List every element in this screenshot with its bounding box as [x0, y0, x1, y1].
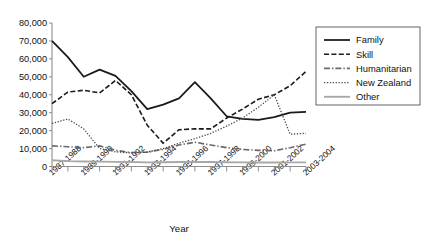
x-axis-title: Year — [169, 223, 189, 234]
y-tick-label: 40,000 — [19, 90, 47, 100]
x-tick-label: 1993-1994 — [142, 143, 179, 177]
y-tick-label: 80,000 — [19, 18, 47, 28]
x-tick-label: 2003-2004 — [301, 143, 338, 177]
y-tick-label: 10,000 — [19, 144, 47, 154]
series-line-skill — [52, 71, 306, 143]
series-lines-group — [52, 41, 306, 163]
x-tick-label: 2001-2002 — [269, 143, 306, 177]
line-chart: 010,00020,00030,00040,00050,00060,00070,… — [0, 0, 425, 242]
x-tick-label: 1995-1996 — [174, 143, 211, 177]
y-tick-label: 50,000 — [19, 72, 47, 82]
y-tick-label: 60,000 — [19, 54, 47, 64]
x-tick-label: 1999-2000 — [237, 143, 274, 177]
legend-label-new-zealand: New Zealand — [356, 77, 411, 88]
y-axis-tick-labels: 010,00020,00030,00040,00050,00060,00070,… — [19, 18, 47, 172]
series-line-family — [52, 41, 306, 120]
x-tick-label: 1991-1992 — [110, 143, 147, 177]
legend-label-other: Other — [356, 91, 379, 102]
y-tick-label: 20,000 — [19, 126, 47, 136]
y-tick-label: 30,000 — [19, 108, 47, 118]
x-axis-tick-labels: 1987-19881989-19901991-19921993-19941995… — [47, 143, 338, 177]
legend-label-humanitarian: Humanitarian — [356, 63, 412, 74]
chart-canvas: 010,00020,00030,00040,00050,00060,00070,… — [0, 0, 425, 242]
legend-label-family: Family — [356, 34, 384, 45]
legend-label-skill: Skill — [356, 49, 373, 60]
y-tick-label: 70,000 — [19, 36, 47, 46]
